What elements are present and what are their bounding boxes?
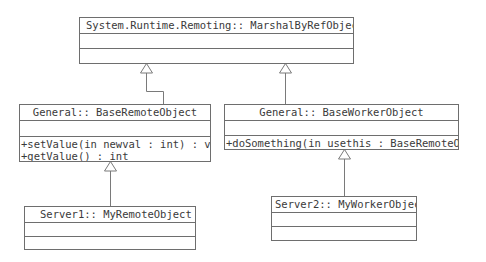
operation-set-value: +setValue(in newval : int) : void [20,138,210,150]
inheritance-arrow-icon [280,64,292,74]
connector-base-remote-to-marshal [147,73,164,104]
attributes-compartment [20,121,210,137]
class-my-remote-object: Server1:: MyRemoteObject [24,206,196,250]
class-marshal-by-ref-object: System.Runtime.Remoting:: MarshalByRefOb… [79,17,354,64]
operations-compartment [272,227,416,240]
inheritance-arrow-icon [105,162,117,172]
operations-compartment [80,49,353,63]
attributes-compartment [80,34,353,49]
attributes-compartment [272,213,416,227]
class-name: General:: BaseWorkerObject [225,105,458,121]
attributes-compartment [225,121,458,136]
operation-do-something: +doSomething(in usethis : BaseRemoteObje… [225,137,458,149]
inheritance-arrow-icon [141,64,153,74]
class-name: Server2:: MyWorkerObject [272,197,416,213]
class-base-worker-object: General:: BaseWorkerObject +doSomething(… [224,104,459,150]
operations-compartment [25,237,195,249]
class-my-worker-object: Server2:: MyWorkerObject [271,196,417,241]
operations-compartment: +doSomething(in usethis : BaseRemoteObje… [225,136,458,149]
operations-compartment: +setValue(in newval : int) : void +getVa… [20,137,210,161]
class-base-remote-object: General:: BaseRemoteObject +setValue(in … [19,104,211,162]
attributes-compartment [25,223,195,237]
class-name: General:: BaseRemoteObject [20,105,210,121]
uml-diagram-canvas: System.Runtime.Remoting:: MarshalByRefOb… [0,0,486,262]
inheritance-arrow-icon [339,150,351,160]
class-name: Server1:: MyRemoteObject [25,207,195,223]
operation-get-value: +getValue() : int [20,150,210,161]
class-name: System.Runtime.Remoting:: MarshalByRefOb… [80,18,353,34]
